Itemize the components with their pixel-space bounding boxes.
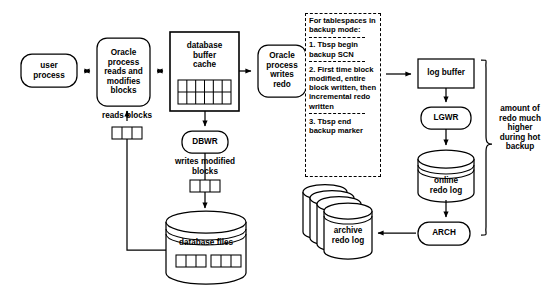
right-brace — [481, 60, 492, 235]
edge-db-files-to-reads — [127, 139, 166, 250]
note-divider-3 — [309, 113, 365, 114]
log-buffer-shape — [418, 59, 474, 88]
note-divider-1 — [309, 37, 365, 38]
online-redo-log-shape — [418, 150, 474, 202]
oracle-process-reads-shape — [97, 38, 150, 106]
oracle-backup-diagram: user process Oracle process reads and mo… — [0, 0, 545, 286]
diagram-canvas — [0, 0, 545, 286]
note-item-1: 1. Tbsp begin backup SCN — [309, 40, 379, 58]
note-item-3: 3. Tbsp end backup marker — [309, 117, 379, 135]
oracle-process-writes-redo-shape — [258, 45, 306, 97]
arch-shape — [418, 222, 470, 245]
redo-amount-brace-label: amount of redo much higher during hot ba… — [497, 104, 543, 152]
user-process-shape — [21, 54, 77, 87]
buffer-cache-grid — [178, 80, 231, 104]
lgwr-shape — [421, 107, 471, 129]
reads-blocks-label: reads blocks — [93, 111, 161, 121]
backup-mode-note-content: For tablespaces in backup mode: 1. Tbsp … — [309, 16, 379, 135]
note-heading: For tablespaces in backup mode: — [309, 16, 379, 34]
note-divider-2 — [309, 61, 365, 62]
dbwr-shape — [182, 131, 228, 153]
writes-modified-blocks-cells — [190, 180, 220, 192]
reads-blocks-cells — [112, 127, 142, 139]
database-files-shape — [166, 211, 246, 284]
writes-modified-blocks-label: writes modified blocks — [160, 157, 250, 176]
archive-redo-log-shape — [303, 185, 372, 260]
note-item-2: 2. First time block modified, entire blo… — [309, 65, 379, 111]
